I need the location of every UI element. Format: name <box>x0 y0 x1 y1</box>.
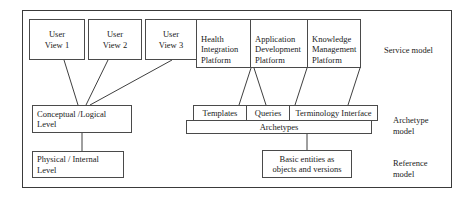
user-view-3-label: User View 3 <box>159 29 183 50</box>
user-view-2-box[interactable]: User View 2 <box>88 19 142 60</box>
user-view-1-label: User View 1 <box>45 29 69 50</box>
archetypes-bar[interactable]: Archetypes <box>186 120 372 134</box>
diagram-canvas: User View 1 User View 2 User View 3 Conc… <box>0 0 474 202</box>
archetypes-label: Archetypes <box>260 122 299 133</box>
health-integration-platform-box[interactable]: Health Integration Platform <box>196 19 251 68</box>
knowledge-management-platform-box[interactable]: Knowledge Management Platform <box>307 19 361 68</box>
queries-box[interactable]: Queries <box>246 105 290 121</box>
templates-box[interactable]: Templates <box>193 105 247 121</box>
application-development-platform-box[interactable]: Application Development Platform <box>250 19 308 68</box>
queries-label: Queries <box>255 108 281 119</box>
user-view-2-label: User View 2 <box>103 29 127 50</box>
conceptual-logical-level-box[interactable]: Conceptual /Logical Level <box>32 105 132 133</box>
reference-model-label: Reference model <box>393 147 427 180</box>
service-model-text: Service model <box>384 45 433 55</box>
physical-internal-level-box[interactable]: Physical / Internal Level <box>32 151 124 178</box>
archetype-model-text: Archetype model <box>393 115 428 136</box>
user-view-1-box[interactable]: User View 1 <box>29 19 85 60</box>
user-view-3-box[interactable]: User View 3 <box>145 19 197 60</box>
archetype-model-label: Archetype model <box>393 104 428 137</box>
terminology-interface-box[interactable]: Terminology Interface <box>289 105 378 121</box>
knowledge-management-platform-label: Knowledge Management Platform <box>312 34 356 65</box>
conceptual-logical-level-label: Conceptual /Logical Level <box>37 109 106 130</box>
application-development-platform-label: Application Development Platform <box>255 34 301 65</box>
physical-internal-level-label: Physical / Internal Level <box>37 154 99 175</box>
reference-model-text: Reference model <box>393 158 427 179</box>
templates-label: Templates <box>203 108 238 119</box>
service-model-label: Service model <box>384 34 433 56</box>
basic-entities-label: Basic entities as objects and versions <box>273 154 342 175</box>
terminology-interface-label: Terminology Interface <box>295 108 371 119</box>
basic-entities-box[interactable]: Basic entities as objects and versions <box>262 150 352 178</box>
health-integration-platform-label: Health Integration Platform <box>201 34 238 65</box>
